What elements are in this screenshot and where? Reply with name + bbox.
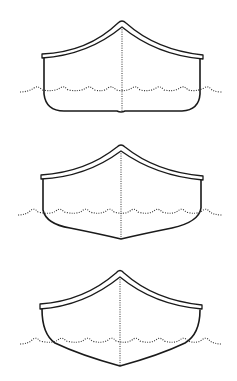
canoe-flat-bottom: [20, 21, 222, 112]
gunwale: [41, 145, 203, 180]
canoe-v-bottom: [20, 271, 222, 367]
canoe-hull-diagram: [0, 0, 237, 381]
hull-outline: [42, 309, 200, 366]
hull-outline: [43, 179, 201, 239]
gunwale: [40, 271, 202, 310]
canoe-shallow-v: [18, 145, 222, 239]
